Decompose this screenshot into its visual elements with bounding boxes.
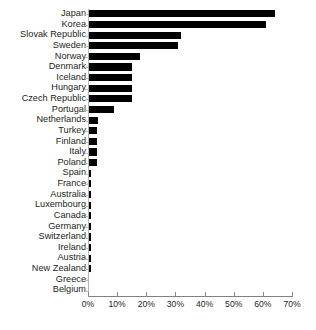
plot-area: JapanKoreaSlovak RepublicSwedenNorwayDen… [0,9,316,296]
category-label: Iceland [56,72,86,82]
category-label: Belgium [53,284,86,294]
category-tick [85,36,88,37]
chart-row: Slovak Republic [0,30,316,41]
category-tick [85,57,88,58]
category-label: Netherlands [36,114,86,124]
chart-row: Japan [0,9,316,20]
category-label: Denmark [49,61,86,71]
category-label: Hungary [51,82,86,92]
category-tick [85,67,88,68]
category-label: Ireland [58,242,86,252]
chart-row: Iceland [0,73,316,84]
bar [88,95,132,102]
chart-row: Finland [0,137,316,148]
category-label: Czech Republic [22,93,86,103]
category-tick [85,184,88,185]
category-tick [85,206,88,207]
category-label: Greece [56,274,86,284]
category-tick [85,46,88,47]
x-axis-tick [234,292,235,297]
bar [88,42,178,49]
category-tick [85,195,88,196]
bar [88,159,97,166]
category-tick [85,248,88,249]
category-label: Norway [55,51,86,61]
x-axis-tick [292,292,293,297]
chart-row: Sweden [0,41,316,52]
x-axis-tick-label: 70% [283,299,300,309]
x-axis-tick-label: 60% [254,299,271,309]
bar [88,32,181,39]
bar [88,148,97,155]
category-label: Canada [54,210,86,220]
category-label: Italy [69,146,86,156]
category-axis-line [88,9,89,296]
chart-row: Luxembourg [0,200,316,211]
category-tick [85,216,88,217]
category-label: Portugal [52,104,86,114]
category-tick [85,227,88,228]
bar [88,138,97,145]
bar-chart: JapanKoreaSlovak RepublicSwedenNorwayDen… [0,0,316,330]
category-label: Germany [48,221,86,231]
x-axis-tick-label: 10% [109,299,126,309]
chart-row: France [0,179,316,190]
category-tick [85,269,88,270]
category-label: Switzerland [39,231,87,241]
category-tick [85,238,88,239]
category-label: France [57,178,86,188]
category-tick [85,280,88,281]
chart-row: Denmark [0,62,316,73]
category-label: Slovak Republic [20,29,86,39]
category-label: Sweden [53,40,86,50]
chart-row: Norway [0,52,316,63]
category-tick [85,121,88,122]
x-axis-tick-label: 50% [225,299,242,309]
category-tick [85,174,88,175]
category-tick [85,259,88,260]
chart-row: Turkey [0,126,316,137]
category-tick [85,163,88,164]
bar [88,21,266,28]
x-axis-tick [88,292,89,297]
x-axis-tick [205,292,206,297]
category-tick [85,142,88,143]
chart-row: New Zealand [0,264,316,275]
category-label: Australia [50,189,86,199]
bar [88,85,132,92]
bar [88,117,98,124]
category-tick [85,110,88,111]
category-tick [85,14,88,15]
category-label: Japan [61,8,86,18]
x-axis-tick-label: 40% [196,299,213,309]
bar [88,53,140,60]
category-label: Finland [56,136,86,146]
bar [88,106,114,113]
x-axis-tick-label: 20% [138,299,155,309]
category-label: Spain [63,167,87,177]
chart-row: Spain [0,168,316,179]
category-tick [85,131,88,132]
category-label: New Zealand [32,263,86,273]
x-axis-tick [175,292,176,297]
category-label: Poland [57,157,86,167]
chart-title [88,0,298,2]
category-tick [85,153,88,154]
chart-row: Italy [0,147,316,158]
category-label: Turkey [58,125,86,135]
bar [88,127,97,134]
bar [88,10,275,17]
bar [88,63,132,70]
x-axis-tick [146,292,147,297]
bar [88,74,132,81]
category-label: Korea [61,19,86,29]
category-tick [85,78,88,79]
chart-row: Belgium [0,285,316,296]
x-axis-tick [263,292,264,297]
category-label: Austria [57,252,86,262]
category-tick [85,89,88,90]
chart-row: Ireland [0,243,316,254]
category-label: Luxembourg [35,199,86,209]
chart-row: Czech Republic [0,94,316,105]
x-axis-tick-label: 0% [82,299,94,309]
